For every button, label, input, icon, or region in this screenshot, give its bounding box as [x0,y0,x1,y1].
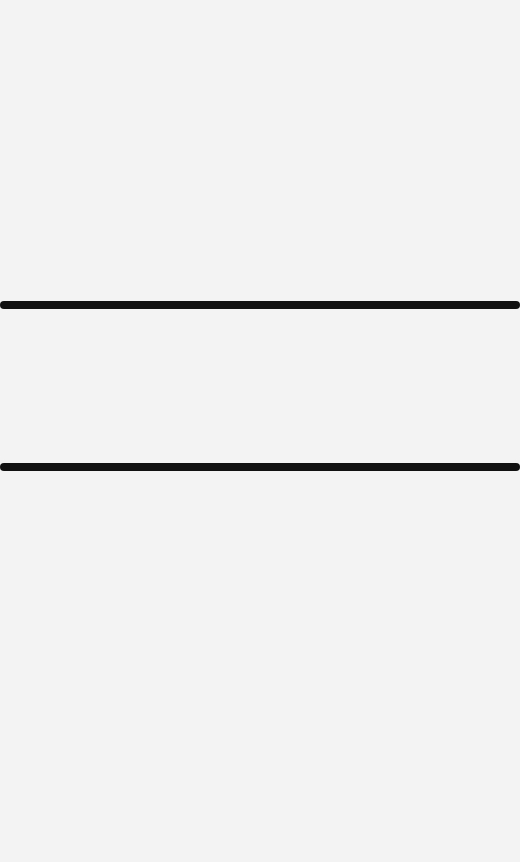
divider-bottom [0,463,520,471]
top-region [0,0,520,301]
blank-screen [0,0,520,862]
middle-region [0,309,520,463]
bottom-region [0,471,520,862]
divider-top [0,301,520,309]
